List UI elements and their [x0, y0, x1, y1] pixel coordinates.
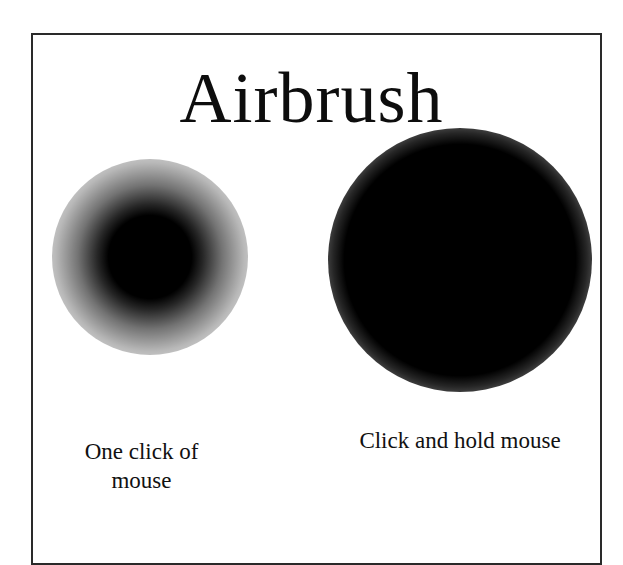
caption-one-click: One click of mouse	[50, 437, 233, 495]
caption-one-click-line1: One click of	[50, 437, 233, 466]
airbrush-spot-one-click	[52, 159, 248, 355]
caption-click-and-hold: Click and hold mouse	[320, 426, 600, 455]
caption-one-click-line2: mouse	[50, 466, 233, 495]
airbrush-spot-click-and-hold	[328, 128, 592, 392]
diagram-title: Airbrush	[0, 62, 623, 134]
